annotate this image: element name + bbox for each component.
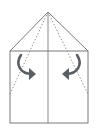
fold-line-left: [10, 12, 48, 94]
fold-arrow-right-icon: [62, 55, 80, 80]
origami-fold-diagram: [0, 0, 98, 131]
fold-line-right: [48, 12, 88, 94]
fold-arrow-left-icon: [18, 55, 36, 80]
paper-rectangle: [10, 51, 88, 123]
triangle-top: [10, 12, 88, 51]
